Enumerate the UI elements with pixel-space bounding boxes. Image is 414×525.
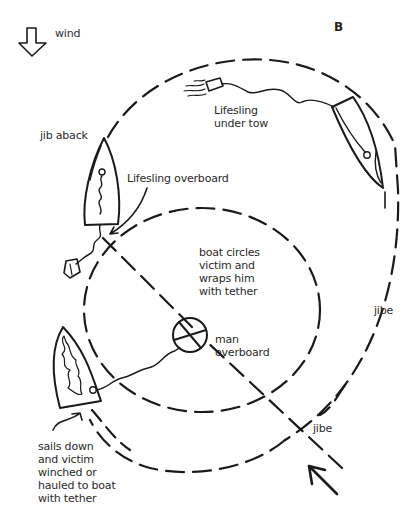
jibe-return-path	[90, 420, 285, 472]
boat-jib-aback-icon	[64, 138, 119, 278]
lifesling-overboard-arrow-icon	[110, 188, 147, 234]
lifesling-under-tow-label: Lifesling under tow	[214, 104, 268, 130]
circle-around-victim	[84, 208, 320, 412]
sails-down-label: sails down and victim winched or hauled …	[38, 440, 116, 505]
boat-circles-label: boat circles victim and wraps him with t…	[199, 246, 260, 298]
approach-arrow-icon	[309, 466, 337, 494]
jibe-label-bottom: jibe	[313, 422, 332, 435]
boat-under-tow-icon	[184, 78, 385, 208]
wind-label: wind	[55, 27, 80, 40]
man-overboard-label: man overboard	[215, 333, 270, 359]
wind-arrow-icon	[19, 28, 46, 56]
jib-aback-label: jib aback	[40, 129, 88, 142]
sails-down-arrow-icon	[53, 413, 82, 430]
panel-label: B	[334, 20, 343, 34]
man-overboard-cross-b	[174, 330, 206, 340]
jibe-label-right: jibe	[374, 304, 393, 317]
lifesling-overboard-label: Lifesling overboard	[127, 172, 229, 185]
boat-sails-down-icon	[54, 327, 180, 408]
